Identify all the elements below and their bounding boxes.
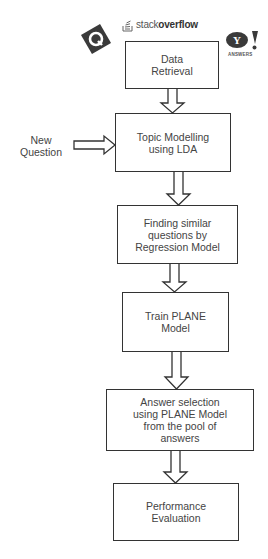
step-train-plane: Train PLANE Model — [122, 292, 229, 352]
step-answer-selection: Answer selection using PLANE Model from … — [106, 389, 254, 451]
step-text: Train PLANE — [145, 310, 206, 322]
yahoo-answers-logo: Y ANSWERS — [222, 30, 264, 60]
step-performance-evaluation: Performance Evaluation — [113, 483, 239, 541]
step-text: from the pool of — [133, 420, 227, 432]
arrow-down-4 — [165, 351, 188, 389]
new-question-line2: Question — [10, 146, 72, 158]
step-topic-modelling: Topic Modelling using LDA — [115, 113, 231, 172]
arrow-right-new-question — [74, 136, 115, 154]
step-finding-similar: Finding similar questions by Regression … — [117, 205, 238, 264]
svg-text:Y: Y — [233, 34, 241, 46]
step-text: Answer selection — [133, 396, 227, 408]
stackoverflow-icon — [122, 20, 134, 32]
step-text: questions by — [135, 229, 220, 241]
arrow-down-5 — [164, 450, 187, 483]
stackoverflow-logo: stackoverflow — [122, 18, 212, 34]
stackoverflow-suffix: overflow — [158, 19, 198, 30]
yahoo-caption: ANSWERS — [228, 52, 252, 57]
step-text: using LDA — [137, 143, 209, 155]
step-text: Retrieval — [151, 65, 192, 77]
step-data-retrieval: Data Retrieval — [125, 41, 219, 89]
stackoverflow-prefix: stack — [136, 19, 158, 30]
arrow-down-3 — [163, 263, 186, 292]
quora-logo — [81, 24, 111, 54]
arrow-down-1 — [161, 88, 184, 113]
step-text: Performance — [146, 500, 206, 512]
step-text: Data — [151, 53, 192, 65]
step-text: Evaluation — [146, 512, 206, 524]
yahoo-icon: Y — [222, 30, 264, 50]
step-text: Topic Modelling — [137, 131, 209, 143]
quora-icon — [77, 20, 115, 58]
step-text: answers — [133, 432, 227, 444]
step-text: Finding similar — [135, 217, 220, 229]
arrow-down-2 — [167, 171, 190, 205]
step-text: using PLANE Model — [133, 408, 227, 420]
step-text: Model — [145, 322, 206, 334]
new-question-label: New Question — [10, 134, 72, 158]
new-question-line1: New — [10, 134, 72, 146]
step-text: Regression Model — [135, 241, 220, 253]
